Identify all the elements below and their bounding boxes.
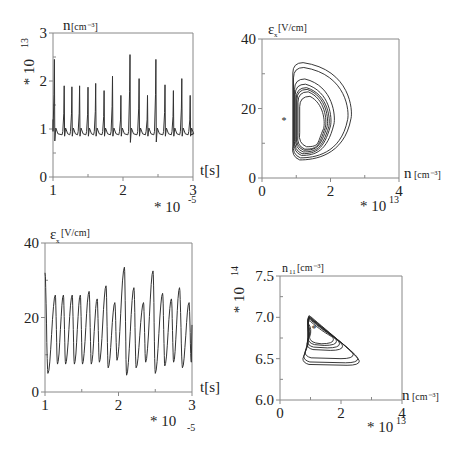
- plot-frame: [280, 276, 402, 400]
- x-tick-label: 0: [258, 183, 266, 199]
- x-label-unit: [cm⁻³]: [412, 391, 439, 402]
- y-label-unit: [V/cm]: [61, 227, 90, 238]
- y-label-unit: [V/cm]: [278, 22, 307, 33]
- svg-text:13: 13: [19, 38, 30, 48]
- x-tick-label: 2: [327, 183, 335, 199]
- x-ticks: 024: [276, 397, 406, 421]
- x-tick-label: 1: [49, 182, 57, 198]
- x-multiplier: * 10: [367, 419, 393, 435]
- y-tick-label: 6.5: [255, 351, 274, 367]
- y-tick-label: 0: [40, 169, 48, 185]
- x-tick-label: 1: [41, 397, 49, 413]
- x-multiplier-exp: 13: [389, 194, 399, 205]
- y-tick-label: 7.5: [255, 268, 274, 284]
- y-label-sub: x: [56, 237, 60, 245]
- x-ticks: 024: [258, 175, 403, 199]
- x-label-symbol: n: [402, 387, 410, 403]
- orbit-curve: [294, 79, 334, 155]
- y-tick-label: 1: [40, 121, 48, 137]
- y-label-unit: [cm⁻³]: [297, 262, 324, 273]
- y-label-symbol: n: [63, 17, 71, 33]
- y-tick-label: 0: [249, 170, 257, 186]
- x-multiplier-exp: -5: [187, 422, 195, 433]
- x-multiplier: * 10: [360, 198, 386, 214]
- y-tick-label: 40: [24, 235, 39, 251]
- x-tick-label: 2: [337, 405, 345, 421]
- phase-orbits: [293, 63, 352, 160]
- y-multiplier: * 10 14: [229, 266, 247, 313]
- density-trace: [53, 55, 194, 143]
- panel-n11-vs-n: 6.06.57.07.5 024 * n 11 [cm⁻³] * 10 14 n…: [229, 261, 439, 435]
- y-multiplier: * 10 13: [19, 38, 37, 85]
- x-multiplier-exp: -5: [188, 194, 196, 205]
- y-tick-label: 0: [32, 384, 40, 400]
- fixed-point-marker: *: [312, 323, 317, 334]
- x-multiplier-exp: 13: [396, 415, 406, 426]
- x-tick-label: 3: [188, 397, 196, 413]
- y-tick-label: 6.0: [255, 392, 274, 408]
- figure: 0123 123 n [cm⁻³] * 10 13 t[s] * 10 -5 0…: [0, 0, 462, 457]
- y-tick-label: 3: [40, 25, 48, 41]
- x-multiplier: * 10: [150, 413, 176, 429]
- panel-n-vs-t: 0123 123 n [cm⁻³] * 10 13 t[s] * 10 -5: [19, 17, 220, 215]
- plot-frame: [53, 33, 193, 177]
- x-label: t[s]: [200, 162, 220, 178]
- y-ticks: 02040: [24, 235, 48, 400]
- plot-frame: [262, 39, 399, 178]
- y-label-unit: [cm⁻³]: [71, 21, 98, 32]
- x-multiplier: * 10: [154, 199, 180, 215]
- panel-ex-vs-t: 02040 123 ε x [V/cm] t[s] * 10 -5: [24, 226, 220, 433]
- svg-text:* 10: * 10: [231, 287, 247, 313]
- x-label-symbol: n: [404, 165, 412, 181]
- y-label-symbol: n: [282, 261, 288, 275]
- plot-frame: [45, 243, 192, 392]
- x-ticks: 123: [49, 174, 197, 198]
- y-ticks: 6.06.57.07.5: [255, 268, 283, 408]
- y-tick-label: 7.0: [255, 309, 274, 325]
- x-ticks: 123: [41, 389, 196, 413]
- y-tick-label: 2: [40, 73, 48, 89]
- fixed-point-marker: *: [282, 115, 287, 126]
- x-label-unit: [cm⁻³]: [414, 169, 441, 180]
- y-tick-label: 20: [241, 101, 256, 117]
- y-ticks: 02040: [241, 31, 265, 186]
- x-tick-label: 0: [276, 405, 284, 421]
- x-tick-label: 2: [119, 182, 127, 198]
- x-label: t[s]: [200, 379, 220, 395]
- x-tick-label: 2: [115, 397, 123, 413]
- field-trace: [45, 267, 192, 375]
- y-label-sub: 11: [289, 268, 296, 276]
- svg-text:* 10: * 10: [21, 59, 37, 85]
- y-tick-label: 40: [241, 31, 256, 47]
- y-tick-label: 20: [24, 310, 39, 326]
- svg-text:14: 14: [229, 266, 240, 276]
- panel-ex-vs-n: 02040 024 * ε x [V/cm] n [cm⁻³] * 10 13: [241, 21, 441, 214]
